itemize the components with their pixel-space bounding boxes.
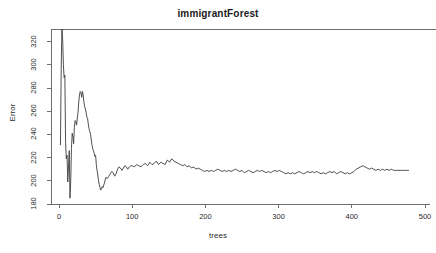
y-tick-label: 280 bbox=[29, 76, 38, 100]
x-tick-label: 0 bbox=[44, 212, 74, 221]
y-axis-title: Error bbox=[8, 93, 17, 133]
y-tick-label: 200 bbox=[29, 168, 38, 192]
y-tick-label: 240 bbox=[29, 122, 38, 146]
x-tick-label: 400 bbox=[337, 212, 367, 221]
y-tick-label: 180 bbox=[29, 192, 38, 216]
x-axis-title: trees bbox=[0, 231, 436, 240]
y-tick-label: 320 bbox=[29, 29, 38, 53]
x-tick-label: 200 bbox=[190, 212, 220, 221]
error-line-series bbox=[60, 27, 409, 199]
chart-canvas: immigrantForest 180200220240260280300320… bbox=[0, 0, 436, 253]
y-tick-label: 260 bbox=[29, 99, 38, 123]
x-tick-label: 100 bbox=[117, 212, 147, 221]
x-tick-label: 500 bbox=[410, 212, 436, 221]
y-tick-label: 220 bbox=[29, 145, 38, 169]
y-tick-label: 300 bbox=[29, 52, 38, 76]
x-tick-label: 300 bbox=[264, 212, 294, 221]
